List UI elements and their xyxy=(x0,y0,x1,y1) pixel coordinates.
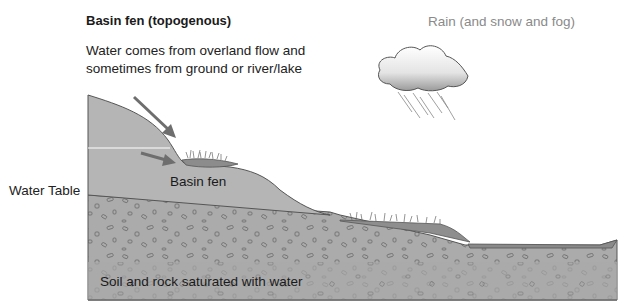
basin-fen-label: Basin fen xyxy=(170,174,226,189)
precipitation-label: Rain (and snow and fog) xyxy=(428,14,575,29)
water-source-description: Water comes from overland flow and somet… xyxy=(86,42,305,78)
saturated-zone-label: Soil and rock saturated with water xyxy=(100,274,303,289)
basin-fen-water xyxy=(182,159,238,167)
diagram-title: Basin fen (topogenous) xyxy=(86,13,231,28)
water-table-label: Water Table xyxy=(9,183,80,198)
rain-cloud-icon xyxy=(378,46,468,120)
upland-soil xyxy=(88,95,330,215)
